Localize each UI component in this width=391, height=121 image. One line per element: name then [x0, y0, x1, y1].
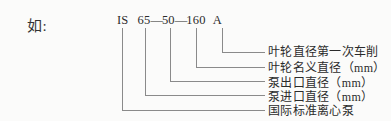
leader-line-pump-outlet-diameter: [171, 28, 266, 82]
leader-line-international-standard-centrifugal-pump: [123, 28, 266, 111]
leader-line-impeller-trim: [223, 28, 266, 53]
leader-line-pump-inlet-diameter: [146, 28, 266, 96]
pump-model-designation-diagram: 如: IS65—50—160A 叶轮直径第一次车削 叶轮名义直径（mm） 泵出口…: [0, 0, 391, 121]
callout-international-standard-centrifugal-pump: 国际标准离心泵: [268, 101, 354, 119]
leader-line-impeller-nominal-diameter: [197, 28, 266, 68]
